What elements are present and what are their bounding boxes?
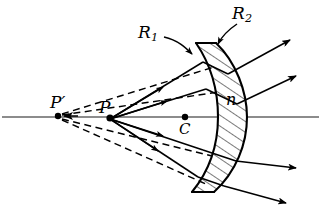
- label-p: P: [99, 99, 110, 116]
- label-n: n: [226, 92, 236, 108]
- label-p-prime: P′: [50, 94, 65, 111]
- incident-rays: [110, 62, 206, 177]
- optics-ray-diagram: R1 R2 P′ P C n: [0, 0, 321, 207]
- diagram-canvas: [0, 0, 321, 207]
- r1-leader-arrow: [164, 37, 192, 54]
- point-p-prime-dot: [55, 113, 61, 119]
- label-r1: R1: [138, 24, 158, 43]
- label-r2: R2: [232, 5, 252, 24]
- label-c: C: [179, 122, 190, 137]
- virtual-ray-extensions: [62, 67, 219, 184]
- r2-leader-arrow: [218, 24, 237, 44]
